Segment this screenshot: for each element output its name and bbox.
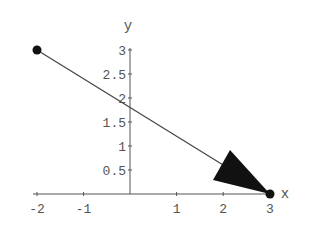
arrowhead: [213, 150, 270, 194]
y-tick-label: 1.5: [103, 116, 126, 131]
x-tick-label: 1: [173, 202, 181, 217]
y-axis-label: y: [124, 18, 132, 34]
chart: -2 -1 1 2 3 0.5 1 1.5 2 2.5 3 y x: [0, 0, 311, 231]
y-tick-label: 0.5: [103, 164, 126, 179]
x-tick-label: 3: [266, 202, 274, 217]
start-point-marker: [33, 46, 42, 55]
x-tick-label: -2: [29, 202, 45, 217]
y-tick-labels: 0.5 1 1.5 2 2.5 3: [103, 44, 127, 179]
y-tick-label: 3: [118, 44, 126, 59]
x-axis-label: x: [281, 186, 289, 202]
x-tick-labels: -2 -1 1 2 3: [29, 202, 274, 217]
chart-svg: -2 -1 1 2 3 0.5 1 1.5 2 2.5 3 y x: [0, 0, 311, 231]
x-tick-label: -1: [76, 202, 92, 217]
y-tick-label: 1: [118, 140, 126, 155]
end-point-marker: [266, 190, 275, 199]
y-tick-label: 2.5: [103, 68, 126, 83]
x-tick-label: 2: [219, 202, 227, 217]
